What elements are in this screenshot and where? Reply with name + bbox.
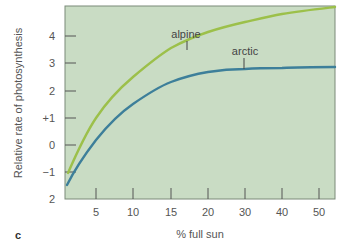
x-tick-label: 5 xyxy=(93,206,99,218)
x-tick-labels: 5 10 15 20 30 40 50 xyxy=(93,206,325,218)
y-tick-label: 0 xyxy=(49,139,55,151)
x-axis-title: % full sun xyxy=(176,228,224,240)
x-tick-label: 50 xyxy=(313,206,325,218)
x-tick-label: 30 xyxy=(239,206,251,218)
panel-label: c xyxy=(15,229,21,241)
x-tick-label: 10 xyxy=(127,206,139,218)
y-axis-title: Relative rate of photosynthesis xyxy=(12,27,24,178)
x-tick-label: 15 xyxy=(165,206,177,218)
y-tick-label: +1 xyxy=(42,112,55,124)
arctic-label: arctic xyxy=(232,45,259,57)
y-tick-labels: 4 3 2 +1 0 −1 2 xyxy=(42,30,55,205)
y-tick-label: 2 xyxy=(49,193,55,205)
x-tick-label: 20 xyxy=(202,206,214,218)
chart: 4 3 2 +1 0 −1 2 5 10 15 20 30 40 50 alpi… xyxy=(0,0,346,248)
y-tick-label: −1 xyxy=(42,166,55,178)
y-tick-label: 2 xyxy=(49,85,55,97)
y-tick-label: 3 xyxy=(49,57,55,69)
alpine-label: alpine xyxy=(171,28,200,40)
y-tick-label: 4 xyxy=(49,30,55,42)
x-tick-label: 40 xyxy=(276,206,288,218)
